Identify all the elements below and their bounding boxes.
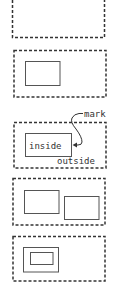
inner-label: inside: [29, 141, 62, 151]
panel-3: inside outside mark: [14, 109, 106, 168]
outer-label: outside: [57, 156, 95, 166]
panel-1: [13, 0, 105, 38]
nested-box: [31, 253, 54, 265]
inner-box: [26, 62, 61, 86]
inner-box-b: [65, 197, 100, 220]
box-model-diagram: inside outside mark: [0, 0, 114, 289]
arrowhead-icon: [73, 143, 78, 148]
inner-box-a: [25, 191, 60, 214]
outer-dashed-box: [13, 0, 105, 38]
pointer-line: [72, 114, 84, 146]
panel-5: [13, 237, 105, 282]
panel-4: [13, 179, 105, 226]
panel-2: [14, 51, 106, 98]
pointer-label: mark: [84, 109, 106, 119]
